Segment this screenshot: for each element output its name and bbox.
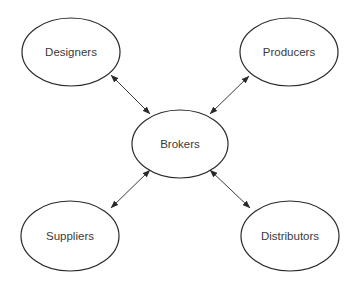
node-label: Brokers [160,138,200,150]
nodes-group: DesignersProducersBrokersSuppliersDistri… [21,18,339,271]
node-distributors: Distributors [241,201,339,271]
broker-network-diagram: DesignersProducersBrokersSuppliersDistri… [0,0,358,283]
node-suppliers: Suppliers [21,201,119,271]
bidirectional-arrow-designers-brokers [111,75,150,114]
bidirectional-arrow-distributors-brokers [210,170,250,208]
node-brokers: Brokers [132,110,228,178]
node-label: Suppliers [46,230,94,242]
node-label: Producers [263,46,316,58]
node-producers: Producers [240,18,338,86]
bidirectional-arrow-producers-brokers [210,76,249,114]
bidirectional-arrow-suppliers-brokers [111,170,150,208]
node-label: Distributors [261,230,319,242]
node-designers: Designers [22,18,120,86]
node-label: Designers [45,46,97,58]
